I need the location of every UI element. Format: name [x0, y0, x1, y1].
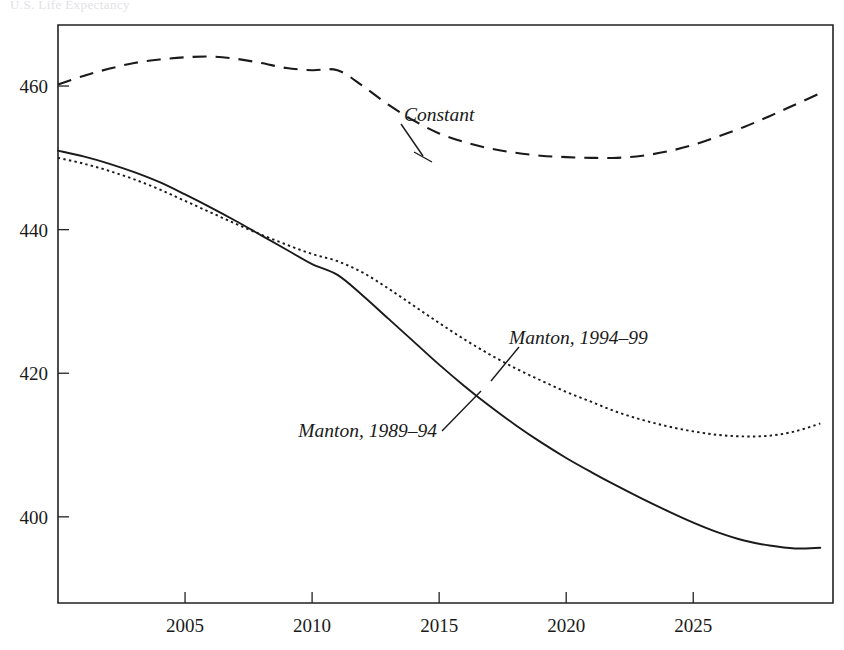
x-axis-ticks: 20052010201520202025	[166, 592, 712, 636]
series-label-manton-1994-99: Manton, 1994–99	[508, 327, 648, 348]
annotation-manton-1989-94: Manton, 1989–94	[297, 391, 481, 441]
series-layer	[58, 57, 820, 549]
cut-off-page-title: U.S. Life Expectancy	[10, 0, 130, 13]
series-line-manton-1989-94	[58, 151, 820, 549]
x-tick-label: 2010	[293, 615, 331, 636]
x-tick-label: 2005	[166, 615, 204, 636]
line-chart-canvas: 400420440460 20052010201520202025 Consta…	[0, 0, 844, 650]
y-tick-label: 420	[20, 363, 49, 384]
y-tick-label: 460	[20, 76, 49, 97]
x-tick-label: 2025	[674, 615, 712, 636]
series-line-manton-1994-99	[58, 158, 820, 437]
x-tick-label: 2020	[547, 615, 585, 636]
leader-line-manton-1989	[442, 391, 481, 431]
y-tick-label: 440	[20, 220, 49, 241]
series-label-manton-1989-94: Manton, 1989–94	[297, 420, 437, 441]
series-label-constant: Constant	[404, 104, 475, 125]
leader-line-manton-1994	[491, 347, 519, 381]
chart-figure: U.S. Life Expectancy 400420440460 200520…	[0, 0, 844, 650]
annotation-manton-1994-99: Manton, 1994–99	[491, 327, 648, 381]
leader-line-constant	[401, 124, 423, 156]
y-tick-label: 400	[20, 507, 49, 528]
y-axis-ticks: 400420440460	[20, 76, 70, 528]
x-tick-label: 2015	[420, 615, 458, 636]
leader-tick-constant	[414, 152, 432, 162]
